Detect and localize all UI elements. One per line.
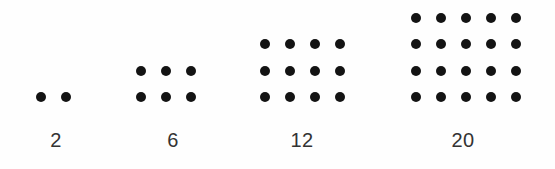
dot (310, 92, 320, 102)
dot (310, 39, 320, 49)
dot (436, 13, 446, 23)
dot (461, 39, 471, 49)
dot (136, 66, 146, 76)
dot (511, 39, 521, 49)
dot (310, 66, 320, 76)
dot (511, 92, 521, 102)
dot (486, 13, 496, 23)
dot-group-20 (411, 13, 521, 119)
dot (411, 66, 421, 76)
dot-group-label-6: 6 (123, 130, 223, 150)
dot (186, 92, 196, 102)
dot (335, 66, 345, 76)
dot-row (411, 92, 521, 119)
dot-row (411, 66, 521, 93)
dot (486, 66, 496, 76)
dot (285, 39, 295, 49)
dot-group-label-12: 12 (252, 130, 352, 150)
dot (436, 66, 446, 76)
dot (411, 92, 421, 102)
dot (260, 92, 270, 102)
dot-group-label-20: 20 (413, 130, 513, 150)
dot-array-figure: 2 6 12 20 (0, 0, 555, 169)
dot (186, 66, 196, 76)
dot-row (411, 39, 521, 66)
dot (260, 66, 270, 76)
dot-row (136, 66, 196, 93)
dot (461, 66, 471, 76)
dot (260, 39, 270, 49)
dot-group-12 (260, 39, 345, 119)
dot (461, 92, 471, 102)
dot (285, 66, 295, 76)
dot (411, 13, 421, 23)
dot (486, 92, 496, 102)
dot-row (136, 92, 196, 119)
dot (285, 92, 295, 102)
dot (161, 66, 171, 76)
dot-group-label-2: 2 (6, 130, 106, 150)
dot (61, 92, 71, 102)
dot (335, 92, 345, 102)
dot (436, 92, 446, 102)
dot-row (260, 66, 345, 93)
dot (411, 39, 421, 49)
dot (36, 92, 46, 102)
dot (461, 13, 471, 23)
dot (335, 39, 345, 49)
dot-row (260, 92, 345, 119)
dot-row (260, 39, 345, 66)
dot (436, 39, 446, 49)
dot-row (36, 92, 71, 119)
dot-group-6 (136, 66, 196, 119)
dot (136, 92, 146, 102)
dot (486, 39, 496, 49)
dot (511, 13, 521, 23)
dot-group-2 (36, 92, 71, 119)
dot (511, 66, 521, 76)
dot (161, 92, 171, 102)
dot-row (411, 13, 521, 40)
